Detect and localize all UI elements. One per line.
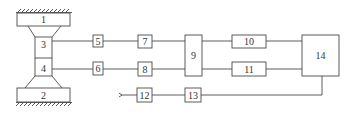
label-11: 11 (244, 64, 254, 75)
label-6: 6 (96, 63, 101, 74)
label-4: 4 (41, 63, 46, 74)
label-5: 5 (96, 36, 101, 47)
label-1: 1 (41, 14, 46, 25)
top-ground-hatch (16, 9, 72, 13)
lower-taper (25, 76, 62, 88)
label-9: 9 (191, 50, 196, 61)
bottom-ground-hatch (16, 103, 72, 107)
input-arrow (119, 93, 122, 97)
label-8: 8 (143, 64, 148, 75)
label-12: 12 (140, 90, 150, 101)
upper-taper (28, 26, 61, 37)
label-10: 10 (244, 36, 254, 47)
label-7: 7 (143, 36, 148, 47)
label-13: 13 (188, 90, 198, 101)
label-14: 14 (316, 50, 326, 61)
label-3: 3 (41, 39, 46, 50)
label-2: 2 (41, 90, 46, 101)
block-diagram: 1 2 3 4 5 6 7 8 9 10 11 12 13 14 (0, 0, 350, 115)
